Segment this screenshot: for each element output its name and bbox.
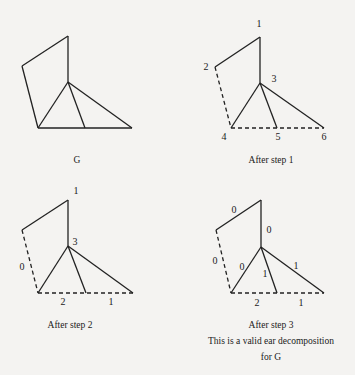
dashed-edge-left-bl [216, 230, 231, 293]
vertex-label: 2 [204, 61, 209, 72]
edge-center-bl [231, 83, 260, 128]
edge-top-left [22, 200, 68, 230]
vertex-label: 4 [222, 131, 227, 142]
panel-step3: 00001121After step 3This is a valid ear … [208, 200, 334, 362]
ear-decomposition-diagram: G123456After step 113021After step 20000… [0, 0, 355, 375]
edge-center-br [260, 83, 324, 128]
edge-label: 2 [61, 296, 66, 307]
edge-center-bl [231, 247, 261, 293]
edge-top-left [215, 37, 260, 67]
dashed-edge-left-bl [215, 67, 231, 128]
edge-label: 1 [263, 268, 268, 279]
edge-left-bl [22, 66, 38, 128]
panel-caption: G [74, 155, 81, 165]
edge-label: 0 [267, 224, 272, 235]
edge-center-br [68, 82, 132, 128]
edge-center-br [68, 246, 133, 293]
vertex-label: 6 [322, 131, 327, 142]
edge-label: 0 [20, 261, 25, 272]
vertex-label: 1 [74, 185, 79, 196]
panel-caption: for G [261, 352, 281, 362]
edge-label: 1 [299, 297, 304, 308]
panel-step2: 13021After step 2 [20, 185, 134, 330]
panel-caption: After step 2 [48, 320, 93, 330]
edge-label: 0 [232, 204, 237, 215]
edge-label: 0 [240, 261, 245, 272]
edge-top-left [22, 36, 68, 66]
panel-G: G [22, 36, 132, 165]
panel-caption: After step 3 [249, 320, 294, 330]
edge-label: 0 [213, 255, 218, 266]
edge-label: 1 [294, 260, 299, 271]
panel-caption: After step 1 [249, 155, 294, 165]
vertex-label: 5 [276, 131, 281, 142]
edge-label: 1 [109, 296, 114, 307]
panel-caption: This is a valid ear decomposition [208, 336, 334, 346]
vertex-label: 3 [73, 236, 78, 247]
vertex-label: 1 [257, 18, 262, 29]
edge-label: 2 [255, 297, 260, 308]
panel-step1: 123456After step 1 [204, 18, 327, 165]
edge-center-br [261, 247, 324, 293]
edge-center-bl [38, 246, 68, 293]
edge-top-left [216, 200, 261, 230]
edge-center-bl [38, 82, 68, 128]
vertex-label: 3 [272, 73, 277, 84]
